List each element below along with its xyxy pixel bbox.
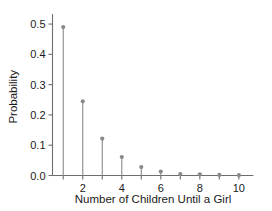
data-point-marker — [120, 155, 124, 159]
geometric-distribution-stem-chart: 0.00.10.20.30.40.5246810Number of Childr… — [0, 0, 272, 211]
x-tick-label: 10 — [233, 182, 245, 194]
x-axis-title: Number of Children Until a Girl — [75, 193, 232, 205]
data-point-marker — [61, 25, 65, 29]
data-point-marker — [178, 172, 182, 176]
data-point-marker — [81, 99, 85, 103]
chart-canvas: 0.00.10.20.30.40.5246810Number of Childr… — [0, 0, 272, 211]
y-tick-label: 0.1 — [30, 139, 45, 151]
x-tick-label: 8 — [197, 182, 203, 194]
y-tick-label: 0.5 — [30, 18, 45, 30]
x-tick-label: 6 — [158, 182, 164, 194]
x-tick-label: 4 — [119, 182, 125, 194]
data-point-marker — [139, 165, 143, 169]
y-tick-label: 0.3 — [30, 79, 45, 91]
x-tick-label: 2 — [80, 182, 86, 194]
y-tick-label: 0.4 — [30, 48, 45, 60]
data-point-marker — [198, 172, 202, 176]
data-point-marker — [159, 169, 163, 173]
data-point-marker — [217, 173, 221, 177]
data-point-marker — [237, 173, 241, 177]
data-point-marker — [100, 136, 104, 140]
y-axis-title: Probability — [7, 70, 19, 124]
y-tick-label: 0.0 — [30, 170, 45, 182]
y-tick-label: 0.2 — [30, 109, 45, 121]
